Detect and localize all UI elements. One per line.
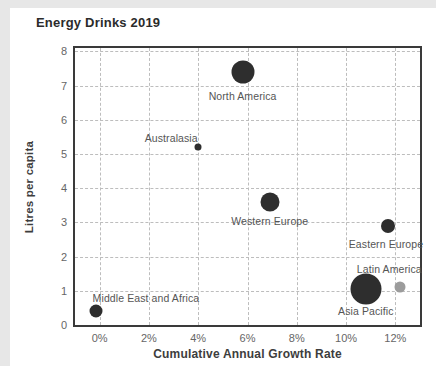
y-axis-title: Litres per capita bbox=[23, 140, 35, 232]
window-frame-left bbox=[0, 0, 10, 366]
plot-area: Litres per capita Cumulative Annual Grow… bbox=[73, 46, 422, 327]
data-point-north-america bbox=[231, 60, 254, 83]
x-tick-label: 6% bbox=[240, 332, 256, 344]
y-tick-label: 0 bbox=[61, 319, 67, 331]
y-tick-label: 5 bbox=[61, 148, 67, 160]
y-tick-label: 6 bbox=[61, 114, 67, 126]
x-gridline bbox=[198, 48, 199, 325]
data-point-western-europe bbox=[260, 192, 279, 211]
chart-screen: Energy Drinks 2019 Litres per capita Cum… bbox=[0, 0, 436, 366]
y-tick-label: 1 bbox=[61, 285, 67, 297]
x-tick-label: 0% bbox=[92, 332, 108, 344]
x-tick-label: 10% bbox=[335, 332, 357, 344]
y-tick-label: 7 bbox=[61, 80, 67, 92]
data-point-asia-pacific bbox=[350, 274, 381, 305]
x-tick-label: 2% bbox=[141, 332, 157, 344]
y-tick-label: 8 bbox=[61, 45, 67, 57]
y-tick-label: 3 bbox=[61, 216, 67, 228]
data-point-label: North America bbox=[209, 90, 277, 102]
data-point-label: Western Europe bbox=[231, 215, 308, 227]
x-tick-label: 4% bbox=[190, 332, 206, 344]
data-point-label: Middle East and Africa bbox=[93, 292, 200, 304]
x-gridline bbox=[297, 48, 298, 325]
x-gridline bbox=[149, 48, 150, 325]
y-tick-label: 4 bbox=[61, 182, 67, 194]
data-point-eastern-europe bbox=[381, 219, 395, 233]
x-gridline bbox=[100, 48, 101, 325]
x-gridline bbox=[346, 48, 347, 325]
y-tick-label: 2 bbox=[61, 251, 67, 263]
data-point-latin-america bbox=[395, 282, 406, 293]
data-point-label: Eastern Europe bbox=[349, 238, 423, 250]
x-tick-label: 12% bbox=[384, 332, 406, 344]
window-frame-top bbox=[0, 0, 436, 8]
chart-title: Energy Drinks 2019 bbox=[36, 15, 160, 30]
data-point-label: Australasia bbox=[145, 132, 198, 144]
data-point-middle-east-and-africa bbox=[89, 305, 102, 318]
x-tick-label: 8% bbox=[289, 332, 305, 344]
x-axis-title: Cumulative Annual Growth Rate bbox=[153, 347, 342, 361]
data-point-label: Asia Pacific bbox=[338, 305, 393, 317]
data-point-australasia bbox=[195, 144, 202, 151]
